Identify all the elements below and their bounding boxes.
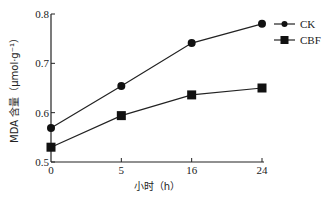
- legend-label: CK: [300, 18, 315, 30]
- series-group: [47, 20, 267, 152]
- data-point: [188, 39, 196, 47]
- y-tick-label: 0.8: [35, 8, 49, 20]
- data-point: [187, 90, 196, 99]
- x-axis-title: 小时（h）: [134, 181, 180, 192]
- legend: CKCBF: [274, 18, 321, 46]
- x-tick-label: 5: [119, 164, 125, 176]
- legend-label: CBF: [300, 34, 321, 46]
- series-cbf: [47, 84, 267, 152]
- data-point: [258, 20, 266, 28]
- data-point: [117, 111, 126, 120]
- y-tick-label: 0.7: [35, 57, 49, 69]
- mda-line-chart: 0.50.60.70.8 051624 CKCBF 小时（h） MDA 含量（μ…: [0, 0, 326, 206]
- data-point: [258, 84, 267, 93]
- x-axis-ticks: 051624: [48, 158, 268, 176]
- legend-item-cbf: CBF: [274, 34, 321, 46]
- x-tick-label: 16: [186, 164, 198, 176]
- x-tick-label: 24: [257, 164, 269, 176]
- series-line-cbf: [51, 88, 262, 147]
- y-axis-title: MDA 含量（μmol·g⁻¹）: [8, 33, 20, 143]
- data-point: [117, 82, 125, 90]
- series-line-ck: [51, 24, 262, 128]
- series-ck: [47, 20, 266, 132]
- data-point: [47, 124, 55, 132]
- data-point: [47, 143, 56, 152]
- axes: [51, 14, 264, 162]
- y-tick-label: 0.6: [35, 107, 49, 119]
- x-tick-label: 0: [48, 164, 54, 176]
- legend-marker: [282, 21, 288, 27]
- legend-item-ck: CK: [274, 18, 315, 30]
- legend-marker: [281, 36, 289, 44]
